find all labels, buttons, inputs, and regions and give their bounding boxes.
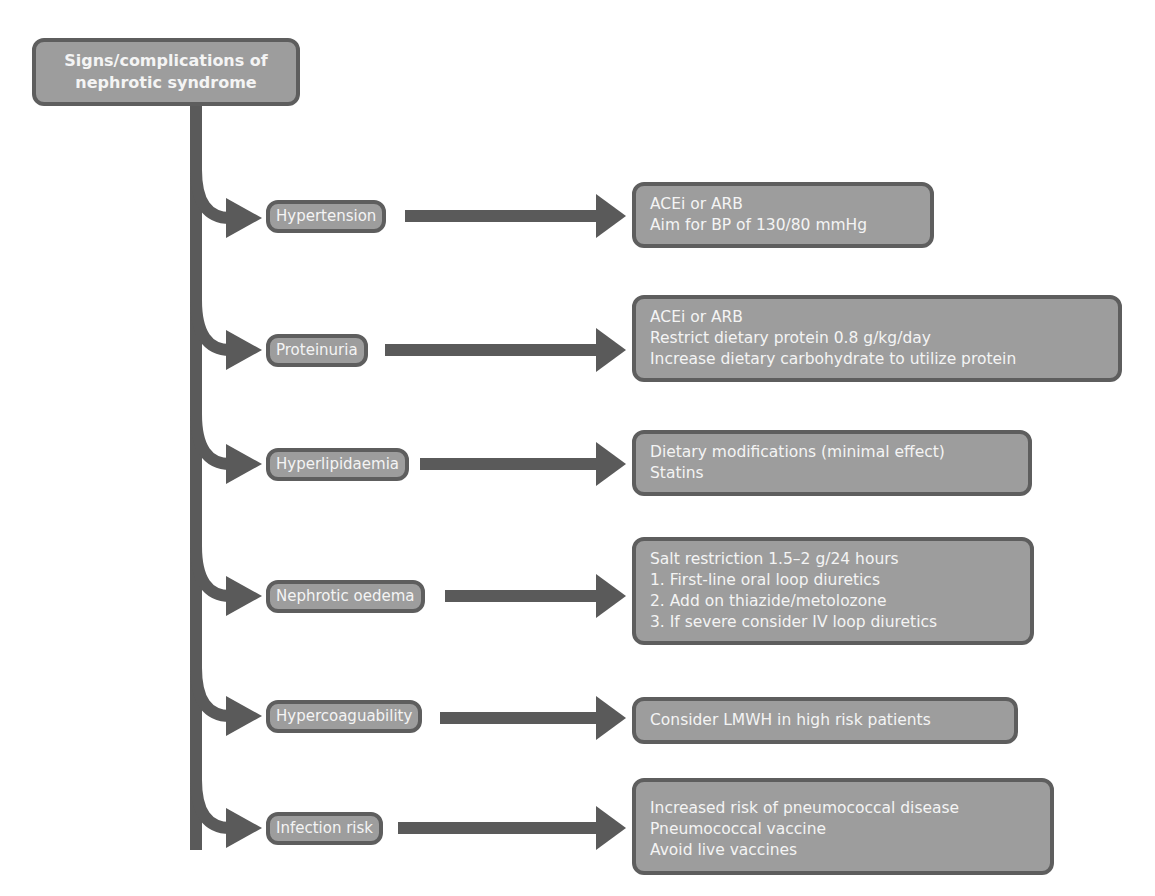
- treatment-node-hypertension: ACEi or ARB Aim for BP of 130/80 mmHg: [632, 182, 934, 248]
- root-node: Signs/complications of nephrotic syndrom…: [32, 38, 300, 106]
- arrowhead-icon: [596, 194, 626, 238]
- branch-curve-infection-risk: [196, 780, 230, 828]
- treatment-line: 1. First-line oral loop diuretics: [650, 570, 1016, 591]
- treatment-line: Increase dietary carbohydrate to utilize…: [650, 349, 1104, 370]
- sign-label: Proteinuria: [276, 341, 358, 359]
- treatment-line: 3. If severe consider IV loop diuretics: [650, 612, 1016, 633]
- branch-curve-hypercoaguability: [196, 668, 230, 716]
- sign-label: Hyperlipidaemia: [276, 455, 399, 473]
- treatment-node-infection-risk: Increased risk of pneumococcal disease P…: [632, 778, 1054, 875]
- treatment-node-proteinuria: ACEi or ARB Restrict dietary protein 0.8…: [632, 295, 1122, 382]
- treatment-line: 2. Add on thiazide/metolozone: [650, 591, 1016, 612]
- sign-node-hypercoaguability: Hypercoaguability: [266, 700, 422, 733]
- treatment-node-hyperlipidaemia: Dietary modifications (minimal effect) S…: [632, 430, 1032, 496]
- sign-label: Infection risk: [276, 819, 373, 837]
- treatment-line: Restrict dietary protein 0.8 g/kg/day: [650, 328, 1104, 349]
- treatment-line: Increased risk of pneumococcal disease: [650, 798, 1036, 819]
- arrowhead-icon: [226, 696, 262, 736]
- branch-curve-hyperlipidaemia: [196, 414, 230, 464]
- sign-label: Nephrotic oedema: [276, 587, 415, 605]
- arrowhead-icon: [596, 574, 626, 618]
- arrowhead-icon: [226, 444, 262, 484]
- sign-node-hypertension: Hypertension: [266, 200, 386, 233]
- arrowhead-icon: [226, 576, 262, 616]
- treatment-line: Consider LMWH in high risk patients: [650, 710, 1000, 731]
- branch-curve-hypertension: [196, 170, 230, 218]
- treatment-line: Aim for BP of 130/80 mmHg: [650, 215, 916, 236]
- branch-curve-proteinuria: [196, 300, 230, 350]
- sign-node-infection-risk: Infection risk: [266, 812, 383, 845]
- arrowhead-icon: [596, 328, 626, 372]
- arrowhead-icon: [596, 442, 626, 486]
- arrowhead-icon: [226, 198, 262, 238]
- root-title-line-2: nephrotic syndrome: [36, 72, 296, 94]
- treatment-line: ACEi or ARB: [650, 307, 1104, 328]
- arrowhead-icon: [226, 330, 262, 370]
- treatment-line: Pneumococcal vaccine: [650, 819, 1036, 840]
- arrowhead-icon: [226, 808, 262, 848]
- sign-node-proteinuria: Proteinuria: [266, 334, 368, 367]
- branch-curve-nephrotic-oedema: [196, 546, 230, 596]
- arrowhead-icon: [596, 696, 626, 740]
- treatment-line: Salt restriction 1.5–2 g/24 hours: [650, 549, 1016, 570]
- treatment-line: Statins: [650, 463, 1014, 484]
- treatment-line: Avoid live vaccines: [650, 840, 1036, 861]
- arrowhead-icon: [596, 806, 626, 850]
- treatment-node-nephrotic-oedema: Salt restriction 1.5–2 g/24 hours 1. Fir…: [632, 537, 1034, 645]
- sign-node-nephrotic-oedema: Nephrotic oedema: [266, 580, 425, 613]
- sign-node-hyperlipidaemia: Hyperlipidaemia: [266, 448, 409, 481]
- sign-label: Hypertension: [276, 207, 376, 225]
- treatment-line: ACEi or ARB: [650, 194, 916, 215]
- treatment-line: Dietary modifications (minimal effect): [650, 442, 1014, 463]
- root-title-line-1: Signs/complications of: [36, 50, 296, 72]
- treatment-node-hypercoaguability: Consider LMWH in high risk patients: [632, 697, 1018, 744]
- sign-label: Hypercoaguability: [276, 707, 412, 725]
